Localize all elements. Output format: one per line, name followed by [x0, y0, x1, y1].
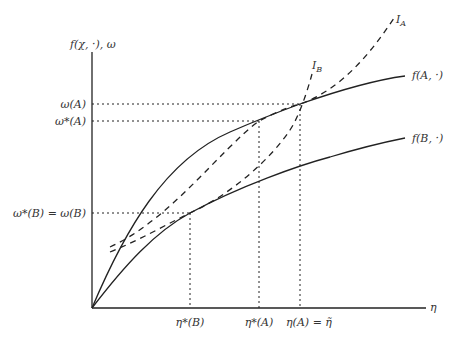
xtick-eta-star-A: η*(A) — [245, 316, 274, 329]
xtick-eta-star-B: η*(B) — [176, 316, 205, 329]
curve-f-A — [92, 76, 405, 308]
curve-I-B — [110, 74, 312, 252]
label-I-B: IB — [311, 59, 322, 74]
label-I-A: IA — [395, 13, 406, 28]
x-axis-label: η — [430, 301, 437, 314]
curve-I-A — [110, 15, 396, 247]
ytick-omega-star-A: ω*(A) — [55, 115, 86, 128]
curve-f-B — [92, 138, 405, 308]
ytick-omega-A: ω(A) — [61, 98, 87, 111]
ytick-omega-B: ω*(B) = ω(B) — [13, 207, 86, 220]
economic-diagram: f(χ, ·), ω η f(A, ·) f(B, ·) IA IB ω(A) … — [0, 0, 465, 341]
label-f-A: f(A, ·) — [411, 69, 443, 82]
label-f-B: f(B, ·) — [411, 132, 443, 145]
y-axis-label: f(χ, ·), ω — [69, 38, 116, 51]
xtick-eta-A: η(A) = η̃ — [286, 316, 332, 329]
